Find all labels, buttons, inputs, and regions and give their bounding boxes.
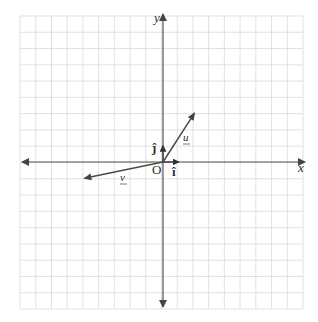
- j-hat-label: ĵ: [151, 140, 157, 155]
- vector-u-label: u: [183, 131, 189, 143]
- vector-diagram: x y O î ĵ u v: [0, 0, 318, 322]
- y-axis-label: y: [152, 10, 160, 25]
- vector-v-label: v: [120, 171, 125, 183]
- vector-u-arrow: [163, 113, 194, 162]
- i-hat-label: î: [171, 164, 176, 179]
- x-axis-label: x: [297, 160, 304, 175]
- vectors: u v: [84, 113, 194, 184]
- coordinate-plane: x y O î ĵ u v: [0, 0, 318, 322]
